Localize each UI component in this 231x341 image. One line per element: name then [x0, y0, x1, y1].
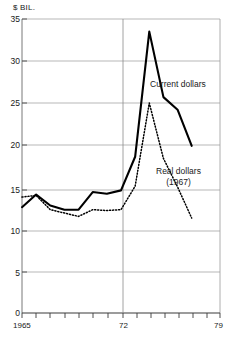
series-label-real-dollars-base: (1967) — [156, 177, 201, 188]
y-tick-label-10: 10 — [2, 227, 20, 236]
chart-page: $ BIL. 35 30 25 20 15 10 5 0 1965 72 79 … — [0, 0, 231, 341]
x-tick-label-79: 79 — [214, 322, 223, 330]
y-tick-label-35: 35 — [2, 15, 20, 24]
x-tick-label-72: 72 — [119, 322, 128, 330]
y-tick-label-30: 30 — [2, 57, 20, 66]
x-axis-ticks — [22, 313, 220, 318]
series-label-real-dollars-text: Real dollars — [156, 166, 201, 176]
y-tick-label-0: 0 — [2, 309, 20, 318]
y-tick-label-5: 5 — [2, 269, 20, 278]
series-line-real-dollars — [22, 103, 192, 218]
y-tick-label-20: 20 — [2, 141, 20, 150]
y-tick-label-25: 25 — [2, 99, 20, 108]
x-tick-label-1965: 1965 — [13, 322, 31, 330]
y-axis-tick-labels: 35 30 25 20 15 10 5 0 — [0, 0, 20, 341]
line-chart-figure: $ BIL. 35 30 25 20 15 10 5 0 1965 72 79 … — [0, 0, 231, 341]
series-label-current-dollars: Current dollars — [150, 79, 206, 90]
y-axis-ticks — [22, 19, 27, 272]
series-label-real-dollars: Real dollars (1967) — [156, 166, 201, 189]
y-tick-label-15: 15 — [2, 186, 20, 195]
gridlines — [22, 19, 220, 272]
